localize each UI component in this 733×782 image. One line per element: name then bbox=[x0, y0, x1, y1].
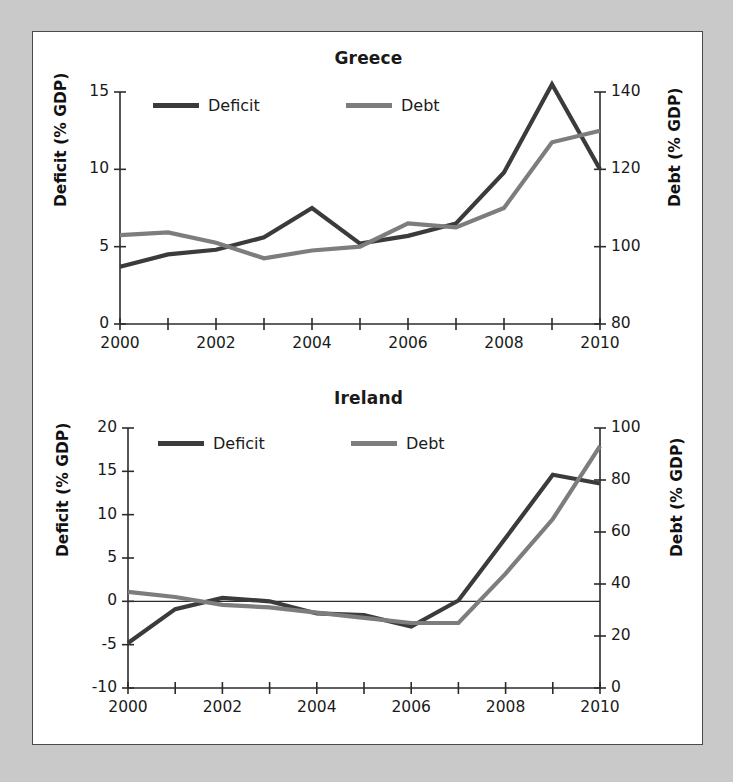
left-axis-tick-label: 20 bbox=[97, 418, 117, 436]
right-axis-tick-label: 80 bbox=[611, 314, 631, 332]
left-axis-tick-label: -10 bbox=[92, 678, 117, 696]
left-axis-tick-label: -5 bbox=[102, 635, 117, 653]
x-axis-tick-label: 2008 bbox=[476, 698, 536, 716]
right-axis-tick-label: 120 bbox=[611, 159, 641, 177]
legend-label-deficit: Deficit bbox=[208, 96, 260, 115]
plot-area-greece bbox=[33, 36, 704, 376]
x-axis-tick-label: 2008 bbox=[474, 334, 534, 352]
right-axis-tick-label: 140 bbox=[611, 82, 641, 100]
chart-ireland: Ireland -10-5051015200204060801002000200… bbox=[33, 382, 704, 742]
series-line-debt bbox=[120, 131, 600, 259]
right-axis-tick-label: 100 bbox=[611, 418, 641, 436]
legend-item-debt: Debt bbox=[346, 96, 440, 115]
right-axis-tick-label: 80 bbox=[611, 470, 631, 488]
left-axis-tick-label: 10 bbox=[97, 505, 117, 523]
right-axis-tick-label: 40 bbox=[611, 574, 631, 592]
legend-item-debt: Debt bbox=[351, 434, 445, 453]
x-axis-tick-label: 2002 bbox=[186, 334, 246, 352]
x-axis-tick-label: 2006 bbox=[378, 334, 438, 352]
left-axis-tick-label: 10 bbox=[89, 159, 109, 177]
left-axis-tick-label: 0 bbox=[107, 591, 117, 609]
figure-panel: Greece 051015801001201402000200220042006… bbox=[32, 31, 703, 745]
x-axis-tick-label: 2004 bbox=[282, 334, 342, 352]
left-axis-tick-label: 5 bbox=[99, 237, 109, 255]
legend-swatch-debt bbox=[351, 441, 397, 446]
left-axis-tick-label: 15 bbox=[89, 82, 109, 100]
legend-swatch-deficit bbox=[153, 103, 199, 108]
x-axis-tick-label: 2010 bbox=[570, 334, 630, 352]
left-axis-tick-label: 0 bbox=[99, 314, 109, 332]
left-axis-tick-label: 15 bbox=[97, 461, 117, 479]
figure-root: Greece 051015801001201402000200220042006… bbox=[0, 0, 733, 782]
chart-greece: Greece 051015801001201402000200220042006… bbox=[33, 36, 704, 376]
right-axis-tick-label: 60 bbox=[611, 522, 631, 540]
x-axis-tick-label: 2000 bbox=[98, 698, 158, 716]
x-axis-tick-label: 2004 bbox=[287, 698, 347, 716]
legend-label-debt: Debt bbox=[401, 96, 440, 115]
series-line-debt bbox=[128, 446, 600, 623]
legend-item-deficit: Deficit bbox=[158, 434, 265, 453]
right-axis-tick-label: 0 bbox=[611, 678, 621, 696]
x-axis-tick-label: 2006 bbox=[381, 698, 441, 716]
right-axis-tick-label: 100 bbox=[611, 237, 641, 255]
legend-item-deficit: Deficit bbox=[153, 96, 260, 115]
x-axis-tick-label: 2000 bbox=[90, 334, 150, 352]
right-axis-tick-label: 20 bbox=[611, 626, 631, 644]
legend-swatch-debt bbox=[346, 103, 392, 108]
x-axis-tick-label: 2010 bbox=[570, 698, 630, 716]
left-axis-tick-label: 5 bbox=[107, 548, 117, 566]
x-axis-tick-label: 2002 bbox=[192, 698, 252, 716]
legend-label-debt: Debt bbox=[406, 434, 445, 453]
legend-label-deficit: Deficit bbox=[213, 434, 265, 453]
legend-swatch-deficit bbox=[158, 441, 204, 446]
